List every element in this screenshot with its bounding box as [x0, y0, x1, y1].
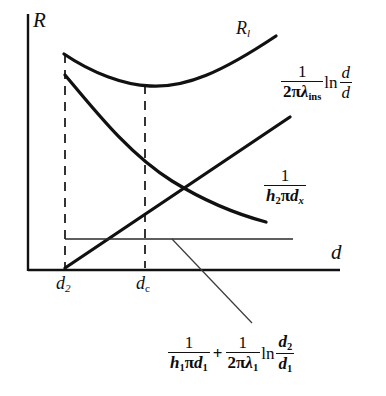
d-subscript-1: 1 — [203, 362, 208, 373]
lambda-symbol: λ — [245, 353, 253, 372]
x-tick-label-d2: d2 — [56, 273, 71, 294]
outer-convection-denominator: h2πdx — [264, 186, 306, 206]
ln-operator: ln — [260, 345, 276, 362]
insulation-conduction-fraction: 1 2πλins — [281, 63, 323, 102]
denominator-coefficient: 2 — [228, 353, 237, 372]
d-symbol: d — [290, 186, 299, 205]
d-subscript-2: 2 — [287, 341, 292, 352]
d-symbol: d — [194, 353, 203, 372]
curve-label-total-resistance: Rl — [236, 18, 250, 39]
x-tick-dc-base: d — [136, 273, 145, 293]
wall-conduction-fraction: 1 2πλ1 — [226, 334, 261, 373]
wall-conduction-denominator: 2πλ1 — [226, 353, 261, 373]
lambda-subscript-1: 1 — [253, 362, 258, 373]
pi-symbol: π — [185, 353, 194, 372]
insulation-conduction-formula: 1 2πλins ln d d — [281, 63, 352, 102]
pi-symbol: π — [236, 353, 245, 372]
pi-symbol: π — [292, 82, 301, 101]
outer-convection-formula: 1 h2πdx — [264, 167, 306, 206]
x-tick-label-dc: dc — [136, 273, 150, 294]
plus-operator: + — [210, 345, 226, 362]
d-symbol: d — [278, 332, 287, 351]
d-subscript-x: x — [299, 195, 304, 206]
inner-convection-numerator: 1 — [168, 334, 210, 353]
log-argument-denominator: d — [340, 83, 353, 101]
wall-log-argument-fraction: d2 d1 — [276, 333, 294, 375]
pi-symbol: π — [281, 186, 290, 205]
denominator-coefficient: 2 — [283, 82, 292, 101]
insulation-conduction-denominator: 2πλins — [281, 82, 323, 102]
d-subscript-1: 1 — [287, 363, 292, 374]
log-argument-numerator: d2 — [276, 333, 294, 354]
resistance-vs-diameter-diagram: R d d2 dc Rl 1 2πλins ln d d 1 h2πdx 1 h… — [0, 0, 386, 396]
log-argument-numerator: d — [340, 64, 353, 83]
inner-convection-denominator: h1πd1 — [168, 353, 210, 373]
x-tick-dc-sub: c — [145, 282, 150, 294]
insulation-log-argument-fraction: d d — [340, 64, 353, 101]
curve-label-sub: l — [247, 27, 250, 39]
inner-plus-wall-formula: 1 h1πd1 + 1 2πλ1 ln d2 d1 — [168, 333, 294, 375]
y-axis-label: R — [33, 8, 46, 33]
total-resistance-curve — [64, 36, 276, 86]
outer-convection-numerator: 1 — [264, 167, 306, 186]
outer-convection-fraction: 1 h2πdx — [264, 167, 306, 206]
x-tick-d2-sub: 2 — [65, 282, 71, 294]
ln-operator: ln — [323, 74, 339, 91]
d-symbol: d — [278, 354, 287, 373]
leader-line-to-inner-plus-wall-formula — [172, 239, 252, 323]
lambda-subscript-ins: ins — [308, 91, 321, 102]
log-argument-denominator: d1 — [276, 354, 294, 374]
inner-convection-fraction: 1 h1πd1 — [168, 334, 210, 373]
insulation-conduction-numerator: 1 — [281, 63, 323, 82]
x-tick-d2-base: d — [56, 273, 65, 293]
x-axis-label: d — [331, 240, 342, 265]
curve-label-base: R — [236, 18, 247, 38]
wall-conduction-numerator: 1 — [226, 334, 261, 353]
